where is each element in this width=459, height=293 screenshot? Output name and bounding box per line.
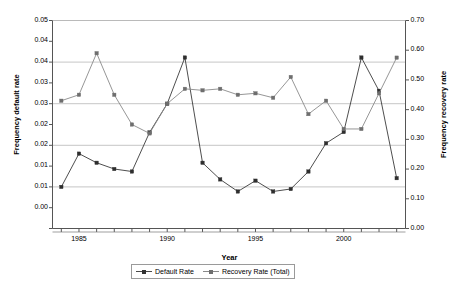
y-axis-left-tick-label: 0.05 xyxy=(18,16,48,23)
y-axis-left-tick-label: 0.01 xyxy=(18,182,48,189)
chart-figure: Frequency default rate Frequency recover… xyxy=(0,0,459,293)
plot-area xyxy=(0,0,459,293)
y-axis-right-tick-label: 0.40 xyxy=(411,105,441,112)
y-axis-right-tick-label: 0.50 xyxy=(411,75,441,82)
y-axis-left-tick-label: 0.02 xyxy=(18,140,48,147)
y-axis-left-tick-label: 0.00 xyxy=(18,203,48,210)
y-axis-left-tick-label: 0.04 xyxy=(18,36,48,43)
y-axis-left-tick-label: 0.03 xyxy=(18,99,48,106)
y-axis-left-tick-label: 0.04 xyxy=(18,57,48,64)
y-axis-right-tick-label: 0.60 xyxy=(411,45,441,52)
legend-label-default-rate: Default Rate xyxy=(155,268,194,275)
y-axis-right-tick-label: 0.70 xyxy=(411,16,441,23)
x-axis-tick-label: 1995 xyxy=(235,235,275,242)
y-axis-left-tick-label: 0.01 xyxy=(18,161,48,168)
legend-label-recovery-rate: Recovery Rate (Total) xyxy=(222,268,290,275)
chart-legend: Default Rate Recovery Rate (Total) xyxy=(131,264,295,279)
y-axis-right-tick-label: 0.20 xyxy=(411,164,441,171)
legend-marker-recovery-rate-icon xyxy=(203,268,219,275)
y-axis-right-tick-label: 0.00 xyxy=(411,224,441,231)
y-axis-left-tick-label: 0.03 xyxy=(18,78,48,85)
legend-item-default-rate: Default Rate xyxy=(136,268,194,275)
y-axis-left-tick-label: 0.02 xyxy=(18,120,48,127)
y-axis-right-tick-label: 0.10 xyxy=(411,194,441,201)
x-axis-tick-label: 1985 xyxy=(59,235,99,242)
x-axis-tick-label: 2000 xyxy=(324,235,364,242)
y-axis-right-tick-label: 0.30 xyxy=(411,134,441,141)
legend-item-recovery-rate: Recovery Rate (Total) xyxy=(203,268,290,275)
legend-marker-default-rate-icon xyxy=(136,268,152,275)
x-axis-tick-label: 1990 xyxy=(147,235,187,242)
